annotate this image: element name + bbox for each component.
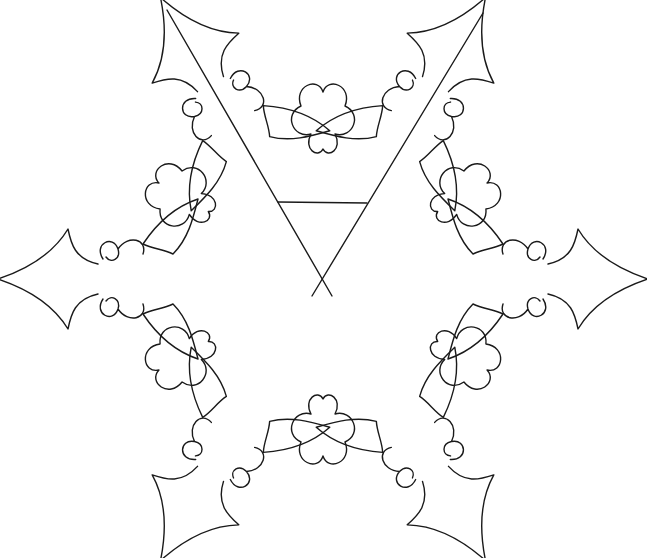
v-crossed-lines — [167, 10, 483, 296]
snowflake-ornament — [0, 0, 647, 558]
snowflake-drawing — [0, 0, 647, 558]
